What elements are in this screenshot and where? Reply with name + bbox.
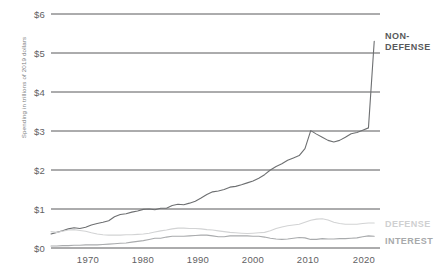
series-lines — [51, 41, 374, 246]
series-label-interest: INTEREST — [385, 236, 433, 247]
series-label-non-defense: NON- DEFENSE — [385, 31, 431, 52]
series-line-interest — [51, 235, 374, 246]
plot-area — [0, 0, 435, 279]
series-line-non-defense — [51, 41, 374, 234]
gridlines — [51, 14, 380, 248]
series-line-defense — [51, 219, 374, 235]
spending-line-chart: Spending in trillions of 2019 dollars $6… — [0, 0, 435, 279]
series-label-defense: DEFENSE — [385, 219, 431, 230]
